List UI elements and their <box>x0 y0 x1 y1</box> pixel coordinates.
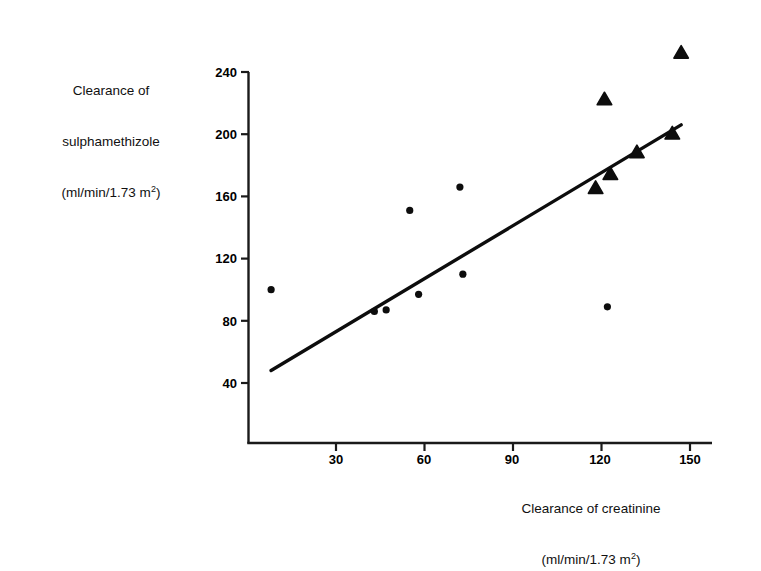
data-point-triangle <box>674 46 689 59</box>
x-axis-units-text: (ml/min/1.73 m <box>542 552 631 567</box>
data-point-circle <box>604 303 611 310</box>
x-axis-title-line-2: (ml/min/1.73 m2) <box>455 551 727 568</box>
x-axis-units-close-paren: ) <box>636 552 641 567</box>
axis-spines <box>247 72 712 444</box>
data-point-circle <box>268 286 275 293</box>
data-point-circle <box>383 306 390 313</box>
data-point-triangle <box>588 181 603 194</box>
fitted-regression-line <box>271 125 681 371</box>
regression-line <box>271 125 681 371</box>
data-point-circle <box>406 207 413 214</box>
data-point-circle <box>371 308 378 315</box>
data-point-circle <box>415 291 422 298</box>
data-point-triangle <box>597 92 612 105</box>
data-point-circle <box>459 271 466 278</box>
x-axis-ticks <box>336 443 690 451</box>
circle-data-points <box>268 183 612 315</box>
data-point-circle <box>456 183 463 190</box>
